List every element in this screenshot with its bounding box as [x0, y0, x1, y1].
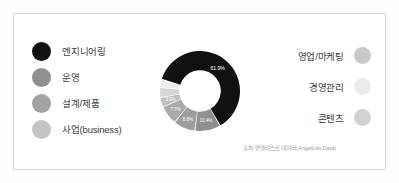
legend-swatch-operations [32, 68, 51, 87]
legend-label-management: 경영관리 [309, 80, 344, 94]
legend-item-engineering[interactable]: 엔지니어링 [32, 38, 106, 64]
legend-swatch-engineering [32, 42, 51, 61]
donut-chart: 61.9%10.4%8.8%7.7%3.9% [150, 31, 250, 151]
legend-swatch-management [354, 78, 371, 95]
legend-label-operations: 운영 [62, 70, 80, 84]
legend-item-contents[interactable]: 콘텐츠 [318, 102, 371, 133]
chart-figure: 엔지니어링 운영 설계/제품 사업(business) 영업/마케팅 경영관리 … [0, 0, 399, 183]
donut-slice-label: 8.8% [183, 117, 193, 122]
legend-swatch-sales-marketing [354, 47, 371, 64]
legend-label-design-product: 설계/제품 [62, 96, 100, 110]
legend-swatch-design-product [32, 94, 51, 113]
legend-swatch-business [32, 120, 51, 139]
donut-slice-label: 61.9% [211, 65, 226, 71]
chart-source-caption: 출처 엔젤리스트 데이터(AngelList Data) [243, 144, 336, 152]
legend-label-sales-marketing: 영업/마케팅 [298, 49, 344, 63]
legend-swatch-contents [354, 109, 371, 126]
donut-slice-label: 10.4% [200, 118, 213, 123]
legend-item-business[interactable]: 사업(business) [32, 116, 121, 142]
legend-item-management[interactable]: 경영관리 [309, 71, 371, 102]
legend-left: 엔지니어링 운영 설계/제품 사업(business) [32, 38, 121, 142]
donut-slice-label: 3.9% [165, 97, 175, 102]
legend-item-sales-marketing[interactable]: 영업/마케팅 [298, 40, 371, 71]
donut-chart-svg: 61.9%10.4%8.8%7.7%3.9% [150, 31, 250, 151]
legend-label-contents: 콘텐츠 [318, 111, 344, 125]
legend-item-design-product[interactable]: 설계/제품 [32, 90, 100, 116]
legend-label-business: 사업(business) [62, 122, 121, 136]
legend-right: 영업/마케팅 경영관리 콘텐츠 [298, 40, 371, 133]
legend-item-operations[interactable]: 운영 [32, 64, 80, 90]
donut-slice-label: 7.7% [170, 107, 180, 112]
legend-label-engineering: 엔지니어링 [62, 44, 106, 58]
